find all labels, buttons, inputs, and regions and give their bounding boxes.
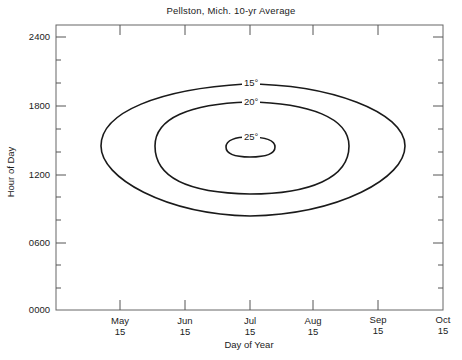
x-tick-day: 15: [165, 326, 205, 337]
x-tick-label-oct: Oct 15: [423, 314, 462, 336]
x-tick-label-jun: Jun 15: [165, 315, 205, 337]
contour-chart: [0, 0, 462, 360]
y-axis-ticks-right: [433, 37, 443, 288]
x-tick-day: 15: [423, 325, 462, 336]
x-tick-label-may: May 15: [100, 315, 140, 337]
x-tick-label-sep: Sep 15: [358, 314, 398, 336]
x-tick-day: 15: [230, 326, 270, 337]
x-tick-month: Jun: [165, 315, 205, 326]
x-tick-label-aug: Aug 15: [293, 315, 333, 337]
x-tick-month: Jul: [230, 315, 270, 326]
x-tick-month: Oct: [423, 314, 462, 325]
x-tick-label-jul: Jul 15: [230, 315, 270, 337]
contour-20: [155, 102, 349, 194]
plot-frame: [56, 25, 443, 310]
contour-label-25: 25°: [242, 131, 260, 142]
x-tick-day: 15: [358, 325, 398, 336]
y-tick-label-1200: 1200: [10, 169, 50, 180]
x-axis-label: Day of Year: [0, 339, 462, 350]
y-tick-label-0000: 0000: [10, 304, 50, 315]
x-tick-day: 15: [293, 326, 333, 337]
x-tick-month: Aug: [293, 315, 333, 326]
x-tick-day: 15: [100, 326, 140, 337]
y-tick-label-0600: 0600: [10, 237, 50, 248]
x-tick-month: May: [100, 315, 140, 326]
x-axis-ticks-top: [120, 25, 378, 35]
y-tick-label-1800: 1800: [10, 100, 50, 111]
contour-label-20: 20°: [242, 96, 260, 107]
contour-label-15: 15°: [242, 77, 260, 88]
y-axis-ticks-left: [56, 37, 66, 288]
x-tick-month: Sep: [358, 314, 398, 325]
y-tick-label-2400: 2400: [10, 31, 50, 42]
x-axis-ticks-bottom: [120, 300, 378, 310]
chart-title: Pellston, Mich. 10-yr Average: [0, 5, 462, 16]
